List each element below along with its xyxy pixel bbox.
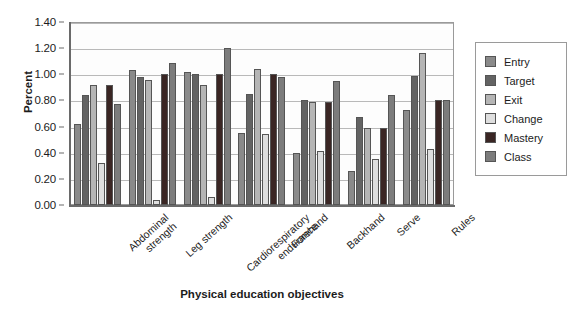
- y-axis-tick-label: 1.00: [34, 68, 56, 80]
- bar: [411, 76, 418, 205]
- legend-swatch-icon: [485, 56, 496, 67]
- y-axis-tick-label: 0.40: [34, 147, 56, 159]
- legend-item[interactable]: Mastery: [485, 128, 560, 147]
- x-axis-category-label: Serve: [394, 211, 422, 238]
- bar: [419, 53, 426, 205]
- x-axis-title: Physical education objectives: [69, 288, 455, 300]
- bar-group: [344, 22, 399, 205]
- legend-swatch-icon: [485, 113, 496, 124]
- legend-label: Target: [504, 75, 535, 87]
- legend-swatch-icon: [485, 94, 496, 105]
- y-axis-title: Percent: [22, 52, 34, 132]
- bar: [169, 63, 176, 205]
- bar: [356, 117, 363, 205]
- y-axis-tick-mark: [59, 205, 64, 206]
- x-axis-category-label: Backhand: [344, 211, 387, 251]
- y-axis-tick-label: 1.40: [34, 16, 56, 28]
- legend-label: Entry: [504, 56, 530, 68]
- legend-swatch-icon: [485, 132, 496, 143]
- legend-item[interactable]: Target: [485, 71, 560, 90]
- bar: [278, 77, 285, 205]
- legend-label: Mastery: [504, 132, 543, 144]
- bar: [443, 100, 450, 205]
- bar: [262, 134, 269, 205]
- bar: [348, 171, 355, 205]
- legend-item[interactable]: Class: [485, 147, 560, 166]
- bar-group: [125, 22, 180, 205]
- y-axis-tick-mark: [59, 48, 64, 49]
- bar: [388, 95, 395, 205]
- bar: [224, 48, 231, 205]
- y-axis-tick-mark: [59, 126, 64, 127]
- bar: [301, 100, 308, 205]
- legend-label: Class: [504, 151, 532, 163]
- bar: [427, 149, 434, 205]
- chart-legend: EntryTargetExitChangeMasteryClass: [475, 42, 567, 176]
- bar: [254, 69, 261, 205]
- bar: [309, 102, 316, 205]
- bar: [325, 102, 332, 205]
- y-axis-tick-mark: [59, 22, 64, 23]
- x-axis-category-label: Rules: [449, 211, 477, 238]
- bar: [380, 128, 387, 205]
- bar: [90, 85, 97, 205]
- y-axis-tick-label: 1.20: [34, 42, 56, 54]
- bar: [98, 163, 105, 205]
- bar: [216, 74, 223, 205]
- bar-group: [399, 22, 454, 205]
- bar: [372, 159, 379, 205]
- y-axis-tick-label: 0.20: [34, 173, 56, 185]
- bar: [246, 94, 253, 205]
- bar-group: [180, 22, 235, 205]
- x-axis-category-label: Abdominalstrength: [126, 211, 179, 262]
- bar: [106, 85, 113, 205]
- bar: [82, 95, 89, 205]
- bar: [293, 153, 300, 205]
- legend-label: Change: [504, 113, 543, 125]
- bar: [270, 74, 277, 205]
- legend-item[interactable]: Exit: [485, 90, 560, 109]
- bar: [74, 124, 81, 205]
- bar: [317, 151, 324, 205]
- bar: [403, 110, 410, 205]
- legend-swatch-icon: [485, 75, 496, 86]
- legend-swatch-icon: [485, 151, 496, 162]
- y-axis-tick-label: 0.00: [34, 199, 56, 211]
- bar: [238, 133, 245, 205]
- bar: [200, 85, 207, 205]
- legend-label: Exit: [504, 94, 522, 106]
- bar-group: [289, 22, 344, 205]
- bar: [333, 81, 340, 205]
- x-axis-category-label: Leg strength: [183, 211, 234, 259]
- y-axis-tick-mark: [59, 152, 64, 153]
- x-axis-category-label: Cardiorespiratoryendurance: [243, 211, 319, 283]
- bars-layer: [70, 22, 454, 205]
- bar-group: [70, 22, 125, 205]
- y-axis-tick-label: 0.60: [34, 121, 56, 133]
- bar: [137, 77, 144, 205]
- bar: [184, 72, 191, 205]
- bar: [145, 80, 152, 205]
- y-axis-tick-mark: [59, 74, 64, 75]
- bar-chart-figure: 0.000.200.400.600.801.001.201.40 Percent…: [0, 0, 578, 312]
- bar: [114, 104, 121, 205]
- bar: [435, 100, 442, 205]
- y-axis-tick-label: 0.80: [34, 94, 56, 106]
- legend-item[interactable]: Entry: [485, 52, 560, 71]
- bar: [192, 74, 199, 205]
- y-axis-tick-mark: [59, 100, 64, 101]
- bar-group: [235, 22, 290, 205]
- legend-item[interactable]: Change: [485, 109, 560, 128]
- y-axis-tick-mark: [59, 178, 64, 179]
- bar: [161, 74, 168, 205]
- x-axis-category-labels: AbdominalstrengthLeg strengthCardiorespi…: [70, 205, 454, 285]
- bar: [208, 197, 215, 205]
- bar: [129, 70, 136, 205]
- bar: [364, 128, 371, 205]
